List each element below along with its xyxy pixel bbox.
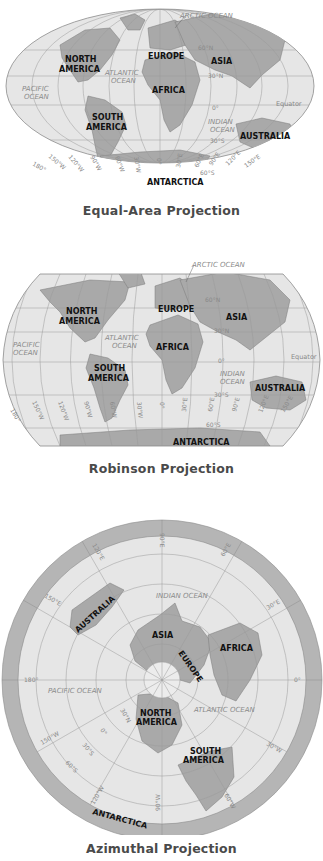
atlantic-ocean-label: ATLANTIC OCEAN — [193, 706, 256, 714]
lat-60n-label: 60°N — [198, 44, 213, 51]
lon-120w-label: 120°W — [67, 153, 86, 173]
lon-0-label: 0° — [159, 402, 166, 409]
atlantic-ocean-label-2: OCEAN — [111, 77, 137, 85]
asia-label: ASIA — [226, 313, 248, 322]
lat-30n-label: 30°N — [214, 327, 229, 334]
lon-30w-label: 30°W — [133, 156, 143, 174]
south-america-label: SOUTH — [94, 364, 125, 373]
lon-30w-label: 30°W — [136, 401, 144, 418]
antarctica-label: ANTARCTICA — [147, 178, 204, 187]
lon-30e-label: 30°E — [174, 153, 183, 169]
atlantic-ocean-label-2: OCEAN — [112, 342, 138, 350]
europe-label: EUROPE — [158, 305, 194, 314]
north-america-label: NORTH — [140, 709, 171, 718]
lon-180-label: 180° — [32, 160, 48, 173]
azimuthal-map: 90°E 60°E 30°E 120°E 150°E 180° 0° 150°W… — [0, 515, 323, 835]
indian-ocean-label: INDIAN — [220, 370, 246, 378]
atlantic-ocean-label: ATLANTIC — [104, 69, 139, 77]
pacific-ocean-label-2: OCEAN — [24, 93, 50, 101]
lon-150w-label: 150°W — [47, 152, 67, 171]
africa-label: AFRICA — [156, 343, 190, 352]
north-america-label: NORTH — [65, 55, 96, 64]
pacific-ocean-label: PACIFIC OCEAN — [48, 687, 102, 695]
robinson-map: ARCTIC OCEAN NORTH AMERICA EUROPE ASIA A… — [0, 250, 323, 475]
indian-ocean-label-2: OCEAN — [220, 378, 246, 386]
equator-label: Equator — [291, 353, 317, 361]
lon-90w-label: 90°W — [154, 794, 161, 811]
australia-label: AUSTRALIA — [255, 384, 306, 393]
asia-label: ASIA — [211, 57, 233, 66]
lon-0-label: 0° — [156, 158, 163, 165]
lat-30n-label: 30°N — [208, 72, 223, 79]
south-america-label-2: AMERICA — [183, 756, 225, 765]
robinson-caption: Robinson Projection — [0, 461, 323, 476]
north-america-label-2: AMERICA — [136, 718, 178, 727]
lon-30e-label: 30°E — [180, 397, 188, 412]
lon-150e-label: 150°E — [243, 153, 262, 169]
equator-label: Equator — [276, 100, 302, 108]
lat-60s-label: 60°S — [200, 169, 215, 176]
lon-0-label: 0° — [294, 676, 301, 683]
lat-30s-label: 30°S — [210, 137, 225, 144]
south-america-label: SOUTH — [190, 747, 221, 756]
indian-ocean-label-2: OCEAN — [210, 126, 236, 134]
north-america-label-2: AMERICA — [59, 65, 101, 74]
equal-area-caption: Equal-Area Projection — [0, 203, 323, 218]
africa-label: AFRICA — [152, 86, 186, 95]
north-america-label-2: AMERICA — [59, 317, 101, 326]
antarctica-label: ANTARCTICA — [173, 438, 230, 447]
pacific-ocean-label: PACIFIC — [22, 85, 49, 93]
lon-90e-label: 90°E — [159, 533, 166, 548]
lat-0-label: 0° — [212, 104, 219, 111]
lat-60n-label: 60°N — [205, 296, 220, 303]
pacific-ocean-label-2: OCEAN — [13, 349, 39, 357]
europe-label: EUROPE — [148, 52, 184, 61]
azimuthal-caption: Azimuthal Projection — [0, 841, 323, 856]
indian-ocean-label: INDIAN — [208, 118, 234, 126]
africa-label: AFRICA — [220, 644, 254, 653]
pacific-ocean-label: PACIFIC — [13, 341, 40, 349]
australia-label: AUSTRALIA — [240, 132, 291, 141]
atlantic-ocean-label: ATLANTIC — [104, 334, 139, 342]
north-america-label: NORTH — [66, 307, 97, 316]
equal-area-map: ARCTIC OCEAN NORTH AMERICA EUROPE ASIA A… — [0, 0, 323, 200]
south-america-label-2: AMERICA — [88, 374, 130, 383]
asia-label: ASIA — [152, 631, 174, 640]
arctic-ocean-label: ARCTIC OCEAN — [179, 12, 234, 20]
south-america-label-2: AMERICA — [86, 123, 128, 132]
lat-60s-label: 60°S — [206, 421, 221, 428]
indian-ocean-label: INDIAN OCEAN — [156, 592, 209, 600]
lon-180-label: 180° — [24, 676, 38, 683]
south-america-label: SOUTH — [92, 113, 123, 122]
arctic-ocean-label: ARCTIC OCEAN — [191, 261, 246, 269]
lat-0-label: 0° — [218, 357, 225, 364]
lat-30s-label: 30°S — [214, 391, 229, 398]
